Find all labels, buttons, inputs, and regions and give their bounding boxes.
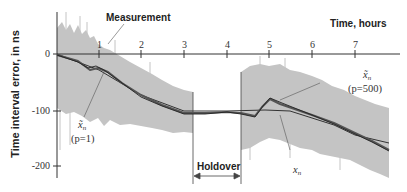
svg-text:x̃n: x̃n	[77, 119, 87, 132]
y-tick-labels: 0 -100 -200	[32, 48, 50, 171]
svg-text:3: 3	[182, 39, 187, 50]
svg-text:(p=500): (p=500)	[348, 83, 382, 95]
svg-text:1: 1	[97, 39, 102, 50]
svg-text:-200: -200	[32, 160, 50, 171]
label-xn-p1: x̃n (p=1)	[71, 119, 95, 145]
x-tick-labels: 12 34 56 7	[97, 39, 358, 50]
label-xn: xn	[292, 164, 302, 177]
svg-text:2: 2	[139, 39, 144, 50]
svg-text:5: 5	[267, 39, 272, 50]
chart-plot: 12 34 56 7 0 -100 -200 Holdover Measurem…	[0, 0, 407, 192]
svg-text:7: 7	[353, 39, 358, 50]
svg-text:4: 4	[225, 39, 230, 50]
label-xn-p500: x̃n (p=500)	[348, 69, 382, 95]
holdover-label: Holdover	[197, 161, 240, 172]
svg-text:x̃n: x̃n	[362, 69, 372, 82]
svg-text:-100: -100	[32, 105, 50, 116]
x-axis-label: Time, hours	[330, 18, 387, 29]
svg-text:(p=1): (p=1)	[71, 133, 95, 145]
measurement-label: Measurement	[106, 12, 171, 23]
measurement-band	[57, 12, 389, 178]
svg-text:6: 6	[310, 39, 315, 50]
svg-text:0: 0	[45, 48, 50, 59]
svg-text:xn: xn	[292, 164, 302, 177]
